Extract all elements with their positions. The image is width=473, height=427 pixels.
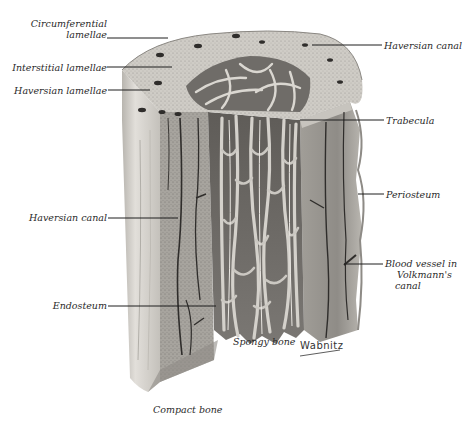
label-text: canal — [385, 280, 457, 291]
label-text: Volkmann's — [385, 269, 457, 280]
label-interstitial-lamellae: Interstitial lamellae — [5, 62, 107, 73]
label-endosteum: Endosteum — [20, 300, 107, 311]
label-haversian-canal-top: Haversian canal — [384, 40, 462, 51]
artist-signature: Wabnitz — [300, 340, 344, 351]
spongy-bone-interior — [208, 112, 304, 344]
label-haversian-lamellae: Haversian lamellae — [5, 85, 107, 96]
label-text: lamellae — [22, 29, 107, 40]
label-text: Circumferential — [22, 18, 107, 29]
compact-bone-right — [300, 102, 362, 342]
label-text: Blood vessel in — [385, 258, 457, 269]
label-compact-bone: Compact bone — [153, 404, 222, 415]
bone-diagram: Circumferential lamellae Interstitial la… — [0, 0, 473, 427]
label-blood-vessel-volkmann: Blood vessel in Volkmann's canal — [385, 258, 457, 291]
compact-bone-left — [122, 70, 218, 392]
label-trabecula: Trabecula — [386, 115, 434, 126]
top-cross-section — [122, 31, 363, 120]
label-circumferential-lamellae: Circumferential lamellae — [22, 18, 107, 40]
label-periosteum: Periosteum — [386, 189, 440, 200]
label-spongy-bone: Spongy bone — [233, 336, 295, 347]
label-haversian-canal-left: Haversian canal — [10, 212, 107, 223]
